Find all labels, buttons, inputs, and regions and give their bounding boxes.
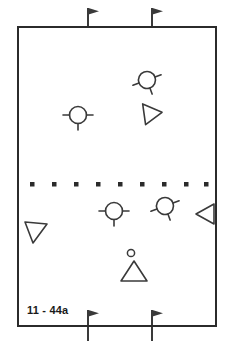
diagram-label: 11 - 44a: [27, 304, 69, 316]
field-diagram-canvas: 11 - 44a: [0, 0, 239, 348]
flag-top-left: [88, 8, 99, 27]
halfway-dot: [204, 182, 209, 187]
halfway-dot: [74, 182, 79, 187]
tactics-diagram: 11 - 44a: [0, 0, 239, 348]
flag-top-right: [152, 8, 163, 27]
halfway-dot: [30, 182, 35, 187]
halfway-dot: [96, 182, 101, 187]
field-background: [17, 26, 217, 327]
flag-pennant: [153, 8, 164, 14]
flag-pennant: [89, 8, 100, 14]
halfway-dot: [184, 182, 189, 187]
halfway-dot: [118, 182, 123, 187]
halfway-dot: [140, 182, 145, 187]
flag-group-top: [88, 8, 163, 27]
halfway-dot: [52, 182, 57, 187]
halfway-dot: [162, 182, 167, 187]
